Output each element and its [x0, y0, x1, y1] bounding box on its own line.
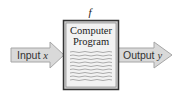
box-title-line1: Computer	[70, 25, 112, 36]
function-label: f	[88, 6, 93, 18]
input-label: Input x	[17, 49, 48, 61]
box-title-line2: Program	[73, 36, 109, 47]
input-arrow: Input x	[11, 42, 64, 68]
output-label: Output y	[123, 49, 162, 61]
output-arrow: Output y	[118, 42, 172, 68]
computer-program-box: Computer Program	[64, 21, 119, 90]
input-variable: x	[42, 50, 48, 61]
function-machine-diagram: Input x Output y f Computer Program	[0, 0, 184, 96]
output-variable: y	[156, 50, 162, 61]
